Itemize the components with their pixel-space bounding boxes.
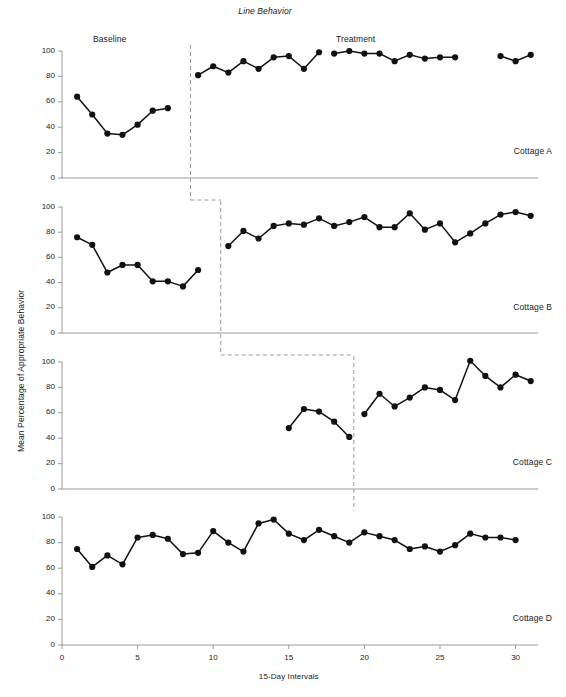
data-point-marker <box>376 224 382 230</box>
y-axis-tick-label: 40 <box>22 122 55 131</box>
data-point-marker <box>361 411 367 417</box>
data-point-marker <box>271 516 277 522</box>
panel-cottage-c <box>58 362 538 489</box>
data-point-marker <box>528 213 534 219</box>
y-axis-tick-label: 40 <box>22 277 55 286</box>
y-axis-tick-label: 60 <box>22 252 55 261</box>
y-axis-tick-label: 100 <box>22 357 55 366</box>
data-point-marker <box>119 262 125 268</box>
data-point-marker <box>210 528 216 534</box>
panel-label-cottage-c: Cottage C <box>440 457 552 467</box>
y-axis-tick-label: 20 <box>22 458 55 467</box>
data-point-marker <box>225 69 231 75</box>
data-point-marker <box>195 72 201 78</box>
chart-canvas <box>0 0 566 697</box>
x-axis-title: 15-Day Intervals <box>219 672 359 681</box>
data-point-marker <box>407 52 413 58</box>
data-point-marker <box>497 534 503 540</box>
data-point-marker <box>165 278 171 284</box>
data-point-marker <box>392 537 398 543</box>
y-axis-tick-label: 80 <box>22 537 55 546</box>
data-point-marker <box>271 54 277 60</box>
data-point-marker <box>135 262 141 268</box>
data-point-marker <box>286 220 292 226</box>
data-point-marker <box>361 214 367 220</box>
data-point-marker <box>119 561 125 567</box>
data-point-marker <box>528 52 534 58</box>
data-point-marker <box>422 56 428 62</box>
data-point-marker <box>376 391 382 397</box>
y-axis-tick-label: 100 <box>22 512 55 521</box>
data-point-marker <box>316 527 322 533</box>
data-point-marker <box>89 111 95 117</box>
data-point-marker <box>513 58 519 64</box>
data-point-marker <box>376 50 382 56</box>
y-axis-tick-label: 40 <box>22 588 55 597</box>
data-point-marker <box>528 378 534 384</box>
y-axis-tick-label: 0 <box>22 484 55 493</box>
series-cottage-d <box>74 516 519 570</box>
data-point-marker <box>392 58 398 64</box>
data-point-marker <box>467 230 473 236</box>
data-point-marker <box>240 548 246 554</box>
data-point-marker <box>316 215 322 221</box>
data-point-marker <box>301 406 307 412</box>
data-point-marker <box>316 49 322 55</box>
data-point-marker <box>513 372 519 378</box>
series-cottage-c <box>286 358 534 440</box>
panel-label-cottage-d: Cottage D <box>440 613 552 623</box>
data-point-marker <box>195 267 201 273</box>
data-point-marker <box>255 520 261 526</box>
data-point-marker <box>180 283 186 289</box>
data-point-marker <box>195 550 201 556</box>
data-point-marker <box>316 408 322 414</box>
y-axis-tick-label: 0 <box>22 640 55 649</box>
data-point-marker <box>331 50 337 56</box>
data-point-marker <box>301 537 307 543</box>
data-point-marker <box>407 546 413 552</box>
data-point-marker <box>392 224 398 230</box>
data-point-marker <box>467 531 473 537</box>
chart-panels-group <box>58 45 538 649</box>
data-point-marker <box>271 223 277 229</box>
y-axis-tick-label: 60 <box>22 407 55 416</box>
data-point-marker <box>89 564 95 570</box>
y-axis-tick-label: 20 <box>22 302 55 311</box>
data-point-marker <box>331 419 337 425</box>
chart-title: Line Behavior <box>0 6 548 16</box>
y-axis-tick-label: 20 <box>22 614 55 623</box>
panel-cottage-a <box>58 51 538 178</box>
data-point-marker <box>361 529 367 535</box>
y-axis-tick-label: 0 <box>22 328 55 337</box>
y-axis-tick-label: 60 <box>22 563 55 572</box>
data-point-marker <box>255 235 261 241</box>
data-point-marker <box>240 58 246 64</box>
data-point-marker <box>104 269 110 275</box>
x-axis-tick-label: 25 <box>420 653 460 662</box>
data-point-marker <box>346 219 352 225</box>
data-point-marker <box>392 403 398 409</box>
data-point-marker <box>225 243 231 249</box>
data-point-marker <box>437 54 443 60</box>
data-point-marker <box>301 222 307 228</box>
data-point-marker <box>119 132 125 138</box>
data-point-marker <box>286 53 292 59</box>
panel-cottage-b <box>58 207 538 333</box>
data-point-marker <box>452 54 458 60</box>
x-axis-tick-label: 15 <box>269 653 309 662</box>
x-axis-tick-label: 20 <box>344 653 384 662</box>
data-point-marker <box>104 130 110 136</box>
y-axis-tick-label: 80 <box>22 71 55 80</box>
data-point-marker <box>346 48 352 54</box>
data-point-marker <box>437 387 443 393</box>
data-point-marker <box>422 227 428 233</box>
data-point-marker <box>301 66 307 72</box>
data-point-marker <box>165 536 171 542</box>
data-point-marker <box>482 220 488 226</box>
phase-change-lines <box>191 45 354 511</box>
data-point-marker <box>331 533 337 539</box>
x-axis-tick-label: 0 <box>42 653 82 662</box>
x-axis-tick-label: 30 <box>496 653 536 662</box>
y-axis-tick-label: 40 <box>22 433 55 442</box>
series-cottage-a <box>74 48 534 138</box>
